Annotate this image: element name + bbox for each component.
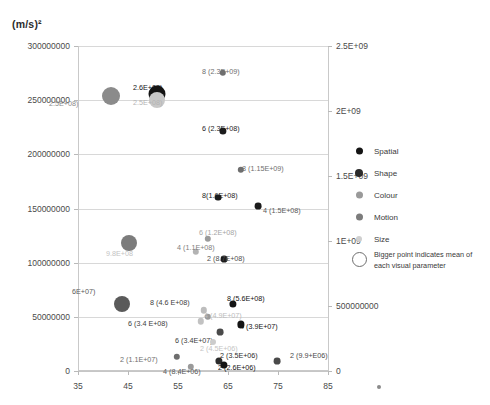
legend-marker-icon <box>356 192 363 199</box>
legend-note-text: Bigger point indicates mean of each visu… <box>374 250 486 271</box>
gridline <box>79 154 328 155</box>
y2-tick-mark <box>328 176 332 177</box>
data-point-label: 2 (3.5E+06) <box>220 352 258 359</box>
data-point-label: 4 (4.9E+07) <box>204 312 242 319</box>
legend-label: Motion <box>374 213 398 222</box>
y-tick-label-left: 300000000 <box>0 41 70 51</box>
x-tick-label: 45 <box>113 381 143 391</box>
x-tick-mark <box>328 371 329 375</box>
y-tick-label-right: 500000000 <box>336 301 379 311</box>
legend-marker-icon <box>356 148 363 155</box>
x-tick-mark <box>278 371 279 375</box>
y-axis-title: (m/s)² <box>12 18 42 30</box>
y-tick-label-right: 0 <box>336 366 341 376</box>
legend-label: Spatial <box>374 147 398 156</box>
data-point-label: 8 (5.6E+08) <box>227 295 265 302</box>
data-point-label: 4 (1.5E+08) <box>263 207 301 214</box>
gridline <box>79 263 328 264</box>
y-tick-label-left: 0 <box>0 366 70 376</box>
legend-marker-icon <box>356 236 362 242</box>
y-tick-label-right: 2.5E+09 <box>336 41 368 51</box>
y-tick-mark <box>74 46 78 47</box>
legend-mean-note: Bigger point indicates mean of each visu… <box>352 250 488 284</box>
data-point-label: 4 (1.1E+08) <box>177 244 215 251</box>
legend-marker-icon <box>355 169 363 177</box>
data-point-label: 8(1.6E+08) <box>202 192 238 199</box>
data-point <box>255 203 262 210</box>
data-point-label: 4 (3.9E+07) <box>240 323 278 330</box>
y2-tick-mark <box>328 111 332 112</box>
legend-marker-icon <box>356 214 363 221</box>
legend-item-colour[interactable]: Colour <box>352 184 488 206</box>
data-point-label: 2.5E+08) <box>49 100 78 107</box>
data-point-label: 2 (2.6E+06) <box>218 364 256 371</box>
y2-tick-mark <box>328 306 332 307</box>
y2-tick-mark <box>328 241 332 242</box>
y-tick-mark <box>74 209 78 210</box>
data-point-mean <box>114 296 130 312</box>
data-point-label: 2 (9.9+E06) <box>290 352 328 359</box>
data-point-label: 2.6E+08) <box>133 84 162 91</box>
legend-label: Size <box>374 235 390 244</box>
legend-item-motion[interactable]: Motion <box>352 206 488 228</box>
data-point-label: 8 (1.15E+09) <box>242 165 284 172</box>
data-point-label: 6 (2.3E+08) <box>202 125 240 132</box>
data-point-label: 9.8E+08 <box>106 250 133 257</box>
y-tick-mark <box>74 317 78 318</box>
y-tick-label-left: 100000000 <box>0 258 70 268</box>
data-point-mean <box>102 87 120 105</box>
y-tick-label-left: 150000000 <box>0 204 70 214</box>
legend-item-spatial[interactable]: Spatial <box>352 140 488 162</box>
y-tick-label-left: 50000000 <box>0 312 70 322</box>
data-point <box>217 329 224 336</box>
x-tick-label: 35 <box>63 381 93 391</box>
data-point-label: 6 (1.2E+08) <box>199 229 237 236</box>
data-point-label: 4 (8.4E+06) <box>163 368 201 375</box>
data-point-label: 2.5E+08) <box>133 99 162 106</box>
x-tick-label: 75 <box>263 381 293 391</box>
data-point-label: 6E+07) <box>72 288 95 295</box>
data-point-label: 2 (1.1E+07) <box>120 356 158 363</box>
legend-item-shape[interactable]: Shape <box>352 162 488 184</box>
corner-marker <box>377 385 381 389</box>
data-point <box>274 357 281 364</box>
y-tick-mark <box>74 154 78 155</box>
x-tick-label: 55 <box>163 381 193 391</box>
legend-label: Colour <box>374 191 398 200</box>
legend-label: Shape <box>374 169 397 178</box>
x-tick-label: 85 <box>313 381 343 391</box>
y-tick-label-left: 200000000 <box>0 149 70 159</box>
y2-tick-mark <box>328 46 332 47</box>
gridline <box>79 46 328 47</box>
mean-circle-icon <box>352 252 367 267</box>
data-point-label: 8 (2.3E+09) <box>202 68 240 75</box>
data-point-label: 6 (3.4 E+08) <box>128 320 168 327</box>
x-tick-mark <box>128 371 129 375</box>
secondary-y-axis <box>328 46 329 371</box>
y-tick-mark <box>74 263 78 264</box>
y-tick-label-right: 2E+09 <box>336 106 361 116</box>
scatter-chart: (m/s)² 050000000100000000150000000200000… <box>0 0 490 405</box>
data-point-label: 2 (8.7E+08) <box>207 255 245 262</box>
x-tick-mark <box>78 371 79 375</box>
legend-item-size[interactable]: Size <box>352 228 488 250</box>
chart-legend: SpatialShapeColourMotionSize Bigger poin… <box>352 140 488 284</box>
gridline <box>79 371 328 372</box>
x-tick-label: 65 <box>213 381 243 391</box>
data-point-label: 8 (4.6 E+08) <box>150 299 190 306</box>
